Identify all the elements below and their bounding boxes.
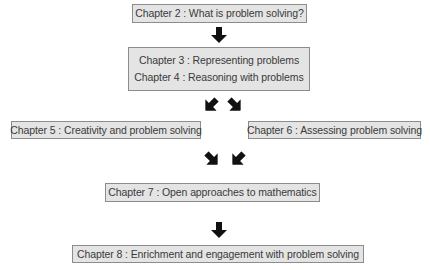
node-chapters-3-4: Chapter 3 : Representing problems Chapte… [128,47,310,91]
arrow-down-left-icon [200,94,223,117]
arrow-down-right-icon [224,94,247,117]
node-label: Chapter 5 : Creativity and problem solvi… [10,125,201,136]
node-label-chapter-4: Chapter 4 : Reasoning with problems [134,72,303,83]
node-chapter-2: Chapter 2 : What is problem solving? [132,4,307,23]
node-label: Chapter 2 : What is problem solving? [135,8,304,19]
node-chapter-7: Chapter 7 : Open approaches to mathemati… [105,183,320,202]
node-chapter-5: Chapter 5 : Creativity and problem solvi… [11,121,201,139]
node-chapter-6: Chapter 6 : Assessing problem solving [248,121,421,139]
arrow-down-icon [211,27,227,43]
node-label: Chapter 6 : Assessing problem solving [247,125,422,136]
arrow-down-icon [211,222,227,238]
arrow-down-left-icon [227,148,250,171]
node-chapter-8: Chapter 8 : Enrichment and engagement wi… [72,245,364,263]
arrow-down-right-icon [201,148,224,171]
node-label: Chapter 7 : Open approaches to mathemati… [108,187,316,198]
node-label-chapter-3: Chapter 3 : Representing problems [139,55,299,66]
node-label: Chapter 8 : Enrichment and engagement wi… [77,249,359,260]
